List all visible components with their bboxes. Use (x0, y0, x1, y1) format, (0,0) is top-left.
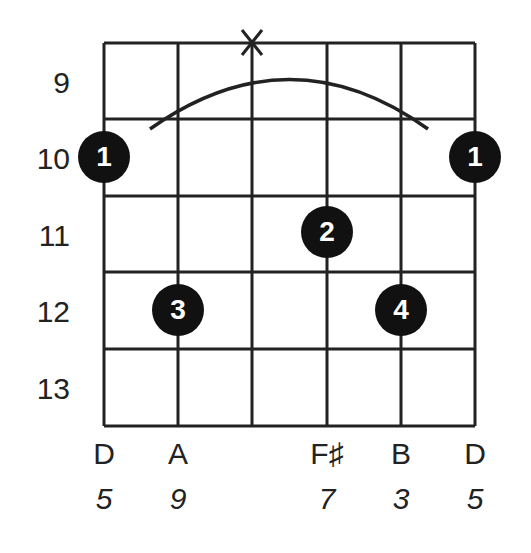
finger-dot: 1 (78, 131, 130, 183)
fret-label: 10 (10, 142, 70, 176)
string-interval: 5 (445, 482, 505, 516)
fret-label: 12 (10, 295, 70, 329)
finger-dot: 2 (301, 206, 353, 258)
fret-label: 9 (10, 66, 70, 100)
finger-dot: 1 (449, 131, 501, 183)
string-note: A (148, 437, 208, 471)
fret-label: 11 (10, 219, 70, 253)
string-interval: 9 (148, 482, 208, 516)
string-note: F♯ (297, 437, 357, 471)
string-note: D (445, 437, 505, 471)
string-interval: 5 (74, 482, 134, 516)
string-interval: 7 (297, 482, 357, 516)
string-note: D (74, 437, 134, 471)
barre-arc (150, 80, 428, 130)
string-interval: 3 (371, 482, 431, 516)
fret-label: 13 (10, 372, 70, 406)
finger-dot: 4 (375, 284, 427, 336)
finger-dot: 3 (152, 284, 204, 336)
string-note: B (371, 437, 431, 471)
